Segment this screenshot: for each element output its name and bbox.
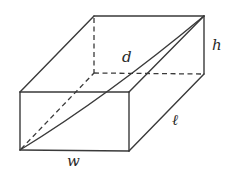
label-height: h <box>212 36 222 54</box>
hidden-edges <box>21 18 203 149</box>
label-length: ℓ <box>172 111 178 129</box>
box-diagonal-diagram: h d ℓ w <box>0 0 236 175</box>
top-face <box>20 16 204 92</box>
label-width: w <box>67 152 80 170</box>
front-face <box>20 92 129 151</box>
right-face <box>129 16 204 151</box>
space-diagonal-line <box>20 16 204 150</box>
label-diagonal: d <box>122 48 132 66</box>
